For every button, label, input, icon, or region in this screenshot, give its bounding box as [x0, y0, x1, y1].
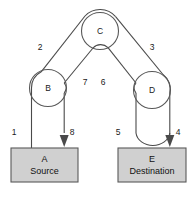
- segment-label-6: 6: [101, 77, 106, 87]
- rope-segment-6-c-to-d: [108, 48, 136, 83]
- block-e-rect: [118, 148, 186, 182]
- arrow-head-4: [165, 135, 174, 147]
- arrow-head-8: [60, 135, 69, 147]
- pulley-system-svg: C B D A Source E Destination 1 2 3 4 5 6…: [0, 0, 195, 200]
- pulley-diagram: C B D A Source E Destination 1 2 3 4 5 6…: [0, 0, 195, 200]
- segment-label-5: 5: [116, 127, 121, 137]
- block-a-name: A: [41, 154, 47, 164]
- pulley-d-label: D: [149, 85, 155, 95]
- segment-label-8: 8: [70, 127, 75, 137]
- block-e-role: Destination: [129, 166, 174, 176]
- rope-underside-arc-pulley-c: [93, 45, 108, 48]
- rope-segment-2-b-to-c: [41, 16, 85, 72]
- segment-label-4: 4: [176, 127, 181, 137]
- block-a-role: Source: [30, 166, 59, 176]
- segment-label-3: 3: [150, 42, 155, 52]
- blocks-group: A Source E Destination: [11, 148, 186, 182]
- block-e-name: E: [149, 154, 155, 164]
- rope-bight-above-block-e: [136, 133, 170, 145]
- rope-segment-7-c-to-b: [64, 48, 93, 83]
- block-a-rect: [11, 148, 78, 182]
- segment-label-7: 7: [83, 77, 88, 87]
- pulley-c-label: C: [97, 26, 103, 36]
- pulley-b-label: B: [45, 83, 51, 93]
- segment-labels-group: 1 2 3 4 5 6 7 8: [12, 42, 181, 137]
- segment-label-1: 1: [12, 127, 17, 137]
- segment-label-2: 2: [38, 42, 43, 52]
